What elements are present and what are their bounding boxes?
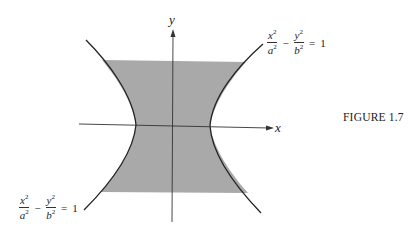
- x-axis-arrow-icon: [266, 126, 274, 131]
- x-axis-label: x: [275, 121, 281, 134]
- equation-bottom-left: x2a2 − y2b2 = 1: [19, 194, 78, 221]
- equation-top-right: x2a2 − y2b2 = 1: [267, 29, 326, 56]
- y-axis-arrow-icon: [171, 29, 176, 37]
- shaded-region: [101, 60, 248, 193]
- figure-caption: FIGURE 1.7: [343, 111, 404, 123]
- y-axis-label: y: [169, 13, 175, 26]
